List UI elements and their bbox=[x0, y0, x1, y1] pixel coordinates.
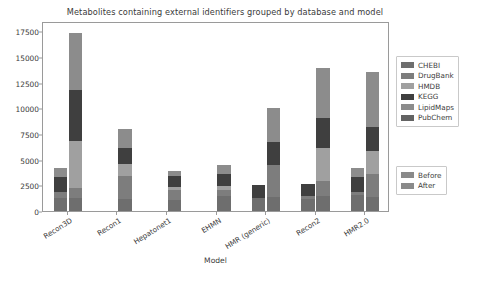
bar-segment-kegg bbox=[217, 174, 231, 187]
bar-segment-drugbank bbox=[69, 188, 83, 198]
legend-label: Before bbox=[418, 172, 442, 179]
bar-segment-drugbank bbox=[267, 165, 281, 197]
x-tick-mark bbox=[67, 212, 68, 215]
bar-segment-chebi bbox=[118, 199, 132, 211]
bar-segment-drugbank bbox=[168, 190, 182, 200]
legend-swatch-icon bbox=[401, 104, 414, 110]
bar-after bbox=[69, 33, 83, 211]
bar-segment-kegg bbox=[366, 127, 380, 152]
bar-segment-chebi bbox=[316, 196, 330, 211]
y-tick-label: 15000 bbox=[15, 53, 39, 62]
bar-segment-hmdb bbox=[168, 187, 182, 191]
bar-after bbox=[366, 72, 380, 211]
bar-segment-lipidmaps bbox=[267, 108, 281, 142]
x-tick-mark bbox=[216, 212, 217, 215]
bar-segment-lipidmaps bbox=[118, 129, 132, 147]
bar-segment-kegg bbox=[168, 176, 182, 187]
bar-segment-kegg bbox=[316, 118, 330, 148]
bar-before bbox=[54, 168, 68, 211]
bar-segment-kegg bbox=[69, 90, 83, 141]
bar-segment-kegg bbox=[252, 185, 266, 198]
x-axis-title: Model bbox=[42, 256, 389, 265]
bar-segment-lipidmaps bbox=[168, 171, 182, 176]
bar-segment-chebi bbox=[252, 198, 266, 211]
x-tick-mark bbox=[166, 212, 167, 215]
bar-segment-chebi bbox=[351, 195, 365, 211]
bar-segment-kegg bbox=[301, 184, 315, 196]
x-tick-label: HMR2.0 bbox=[314, 216, 371, 256]
bar-segment-lipidmaps bbox=[69, 33, 83, 90]
legend-label: After bbox=[418, 182, 435, 189]
x-tick-mark bbox=[315, 212, 316, 215]
legend-item[interactable]: Before bbox=[401, 170, 442, 181]
bar-segment-drugbank bbox=[351, 192, 365, 195]
legend-label: KEGG bbox=[418, 93, 438, 100]
y-tick-label: 17500 bbox=[15, 28, 39, 37]
bar-after bbox=[316, 68, 330, 211]
figure: Metabolites containing external identifi… bbox=[0, 0, 477, 281]
legend-label: PubChem bbox=[418, 114, 452, 121]
bar-segment-hmdb bbox=[217, 186, 231, 190]
bar-segment-hmdb bbox=[69, 141, 83, 188]
legend-swatch-icon bbox=[401, 94, 414, 100]
bar-segment-hmdb bbox=[316, 148, 330, 181]
legend-swatch-icon bbox=[401, 115, 414, 121]
x-tick-mark bbox=[265, 212, 266, 215]
bar-segment-drugbank bbox=[217, 190, 231, 196]
bar-segment-drugbank bbox=[366, 174, 380, 197]
bar-before bbox=[351, 168, 365, 211]
legend-item[interactable]: CHEBI bbox=[401, 60, 454, 71]
bar-segment-hmdb bbox=[118, 164, 132, 176]
bar-segment-kegg bbox=[267, 142, 281, 165]
y-axis-tick-labels: 025005000750010000125001500017500 bbox=[0, 22, 39, 212]
y-tick-label: 10000 bbox=[15, 105, 39, 114]
chart-title: Metabolites containing external identifi… bbox=[60, 7, 390, 17]
y-tick-label: 12500 bbox=[15, 79, 39, 88]
bar-after bbox=[267, 108, 281, 211]
x-tick-label: Hepatonet1 bbox=[115, 216, 172, 256]
legend-swatch-icon bbox=[401, 172, 414, 178]
bar-segment-chebi bbox=[69, 198, 83, 211]
bar-segment-chebi bbox=[168, 200, 182, 211]
bar-segment-lipidmaps bbox=[351, 168, 365, 176]
legend-item[interactable]: After bbox=[401, 181, 442, 192]
bar-segment-chebi bbox=[366, 197, 380, 211]
legend-swatch-icon bbox=[401, 62, 414, 68]
x-tick-label: EHMN bbox=[165, 216, 222, 256]
bar-segment-drugbank bbox=[301, 196, 315, 199]
bars-container bbox=[43, 23, 388, 211]
legend-item[interactable]: LipidMaps bbox=[401, 102, 454, 113]
legend-swatch-icon bbox=[401, 73, 414, 79]
bar-before bbox=[252, 185, 266, 211]
legend-database: CHEBIDrugBankHMDBKEGGLipidMapsPubChem bbox=[396, 56, 459, 127]
legend-item[interactable]: HMDB bbox=[401, 81, 454, 92]
legend-item[interactable]: DrugBank bbox=[401, 71, 454, 82]
x-tick-mark bbox=[116, 212, 117, 215]
bar-after bbox=[217, 165, 231, 211]
x-tick-label: Recon1 bbox=[66, 216, 123, 256]
bar-segment-kegg bbox=[54, 177, 68, 192]
plot-area bbox=[42, 22, 389, 212]
legend-item[interactable]: KEGG bbox=[401, 92, 454, 103]
bar-segment-kegg bbox=[351, 177, 365, 192]
bar-segment-chebi bbox=[267, 197, 281, 211]
bar-segment-drugbank bbox=[54, 192, 68, 198]
bar-before bbox=[301, 184, 315, 211]
legend-item[interactable]: PubChem bbox=[401, 113, 454, 124]
bar-segment-kegg bbox=[118, 148, 132, 164]
bar-segment-chebi bbox=[54, 198, 68, 211]
bar-segment-drugbank bbox=[118, 176, 132, 199]
bar-segment-lipidmaps bbox=[217, 165, 231, 174]
bar-segment-lipidmaps bbox=[316, 68, 330, 118]
legend-label: LipidMaps bbox=[418, 104, 454, 111]
bar-segment-hmdb bbox=[366, 151, 380, 174]
bar-segment-lipidmaps bbox=[366, 72, 380, 126]
bar-segment-chebi bbox=[301, 199, 315, 211]
y-tick-label: 5000 bbox=[20, 156, 39, 165]
legend-label: HMDB bbox=[418, 83, 440, 90]
bar-after bbox=[168, 171, 182, 211]
x-tick-label: HMR (generic) bbox=[214, 216, 271, 256]
bar-segment-lipidmaps bbox=[54, 168, 68, 176]
legend-label: DrugBank bbox=[418, 72, 454, 79]
legend-swatch-icon bbox=[401, 183, 414, 189]
